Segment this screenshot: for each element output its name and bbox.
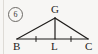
segment-bg (17, 18, 55, 39)
vertex-label-c: C (85, 41, 92, 52)
vertex-label-b: B (13, 41, 20, 52)
vertex-label-l: L (51, 41, 58, 52)
segment-gc (55, 18, 88, 39)
geometry-figure: 6 G B L C (0, 0, 98, 54)
vertex-label-g: G (51, 4, 59, 15)
